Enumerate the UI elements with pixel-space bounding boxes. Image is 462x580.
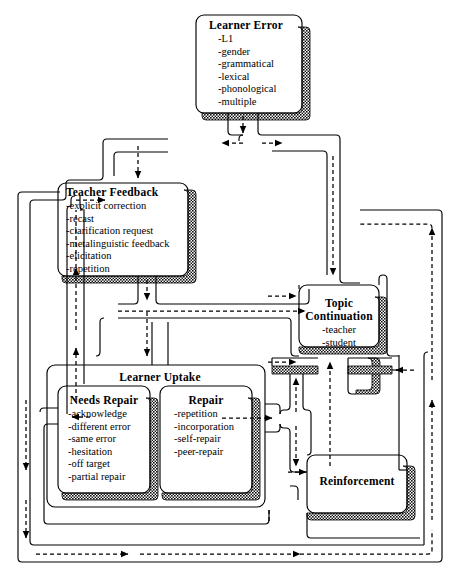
label-learner-error: Learner Error -L1 -gender -grammatical -… — [196, 19, 296, 109]
needs-repair-item: -partial repair — [68, 471, 150, 484]
topic-continuation-title-line2: Continuation — [299, 310, 379, 323]
learner-error-item: -lexical — [218, 71, 296, 84]
learner-error-item: -multiple — [218, 96, 296, 109]
learner-error-items: -L1 -gender -grammatical -lexical -phono… — [196, 33, 296, 109]
teacher-feedback-item: -metalinguistic feedback — [66, 238, 184, 251]
repair-item: -self-repair — [174, 433, 252, 446]
needs-repair-title: Needs Repair — [58, 394, 150, 407]
channel-repair-right-top — [265, 404, 280, 414]
teacher-feedback-title: Teacher Feedback — [58, 186, 184, 199]
label-reinforcement: Reinforcement — [307, 475, 407, 488]
teacher-feedback-item: -clarification request — [66, 225, 184, 238]
topic-continuation-items: -teacher -student — [299, 324, 379, 349]
topic-continuation-item: -student — [299, 337, 379, 350]
channel-up-to-tc-r — [303, 374, 307, 410]
repair-title: Repair — [160, 394, 252, 407]
channel-mid-left-down — [96, 318, 104, 356]
channel-lu-bottom — [48, 510, 269, 524]
channel-to-tf-inner — [114, 152, 168, 176]
diagram-canvas: Learner Error -L1 -gender -grammatical -… — [0, 0, 462, 580]
needs-repair-item: -hesitation — [68, 446, 150, 459]
channel-right-up-inner — [424, 352, 428, 356]
channel-left-bottom-outer — [30, 541, 40, 545]
channel-junction-left-upper — [239, 135, 243, 141]
channel-rf-left-lower — [290, 486, 298, 500]
repair-item: -peer-repair — [174, 446, 252, 459]
channel-to-tc-outer — [272, 135, 360, 283]
channel-repair-right-bot — [265, 424, 280, 432]
needs-repair-item: -acknowledge — [68, 408, 150, 421]
learner-error-item: -grammatical — [218, 58, 296, 71]
topic-continuation-title-line1: Topic — [299, 297, 379, 310]
needs-repair-item: -different error — [68, 421, 150, 434]
channel-left-nr-in-bot — [44, 424, 58, 524]
teacher-feedback-items: -explicit correction -recast -clarificat… — [58, 200, 184, 276]
channel-down-to-rf-r — [307, 440, 311, 455]
teacher-feedback-item: -elicitation — [66, 250, 184, 263]
channel-to-tf-outer — [70, 139, 168, 180]
channel-mid-top — [168, 289, 309, 304]
needs-repair-item: -off target — [68, 458, 150, 471]
channel-up-to-tc-r2 — [307, 410, 311, 440]
needs-repair-items: -acknowledge -different error -same erro… — [58, 408, 150, 484]
tail-bottom-run — [300, 530, 432, 554]
learner-error-item: -phonological — [218, 83, 296, 96]
learner-error-item: -gender — [218, 46, 296, 59]
repair-item: -incorporation — [174, 421, 252, 434]
channel-mid-outline — [118, 318, 299, 356]
learner-error-title: Learner Error — [196, 19, 296, 32]
channel-to-tc-inner — [272, 151, 327, 275]
channel-up-to-tc-l — [280, 374, 290, 414]
label-repair: Repair -repetition -incorporation -self-… — [160, 394, 252, 458]
tail-right-top — [360, 224, 432, 228]
label-learner-uptake: Learner Uptake — [100, 371, 220, 384]
needs-repair-item: -same error — [68, 433, 150, 446]
teacher-feedback-item: -explicit correction — [66, 200, 184, 213]
channel-tc-right-outer — [379, 275, 383, 285]
channel-left-nr-in-top — [40, 408, 58, 412]
repair-items: -repetition -incorporation -self-repair … — [160, 408, 252, 458]
teacher-feedback-item: -repetition — [66, 263, 184, 276]
topic-continuation-item: -teacher — [299, 324, 379, 337]
channel-stub-col-l — [348, 358, 356, 394]
teacher-feedback-item: -recast — [66, 213, 184, 226]
channel-down-to-rf-l — [280, 424, 307, 472]
learner-error-item: -L1 — [218, 33, 296, 46]
label-topic-continuation: Topic Continuation -teacher -student — [299, 297, 379, 349]
label-needs-repair: Needs Repair -acknowledge -different err… — [58, 394, 150, 484]
repair-item: -repetition — [174, 408, 252, 421]
label-teacher-feedback: Teacher Feedback -explicit correction -r… — [58, 186, 184, 276]
